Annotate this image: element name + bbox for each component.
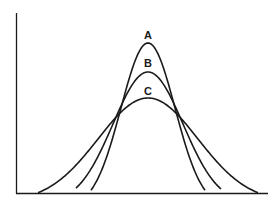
label-a: A bbox=[144, 29, 152, 41]
bell-curves-diagram: A B C bbox=[0, 0, 279, 210]
curve-c bbox=[38, 98, 258, 193]
label-c: C bbox=[144, 85, 152, 97]
label-b: B bbox=[144, 57, 152, 69]
